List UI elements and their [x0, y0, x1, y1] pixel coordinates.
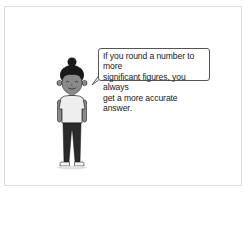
speech-bubble: If you round a number to more significan…	[98, 48, 210, 81]
shirt-icon	[59, 96, 85, 124]
speech-line-3: get a more accurate answer.	[103, 93, 205, 114]
trousers-icon	[63, 123, 81, 162]
speech-line-1: If you round a number to more	[103, 51, 205, 72]
speech-line-2: significant figures, you always	[103, 72, 205, 93]
character-illustration	[52, 57, 92, 172]
